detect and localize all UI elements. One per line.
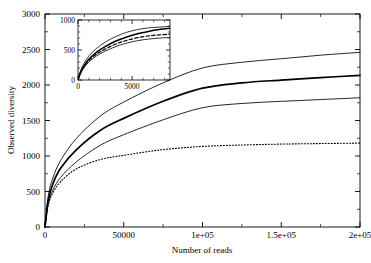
x-tick-label: 50000 — [113, 230, 136, 240]
y-tick-label: 500 — [27, 187, 41, 197]
x-tick-label: 0 — [43, 230, 48, 240]
inset-plot-border — [78, 20, 170, 80]
x-tick-label: 1.5e+05 — [267, 230, 297, 240]
y-tick-label: 1000 — [22, 151, 41, 161]
curve-lower-confidence-bound — [45, 98, 360, 227]
inset-y-tick-label: 500 — [64, 46, 76, 55]
y-axis-tick-labels: 050010001500200025003000 — [22, 9, 41, 232]
inset-y-tick-label: 0 — [71, 76, 75, 85]
y-tick-label: 3000 — [22, 9, 41, 19]
inset-plot: 05001000 05000 — [60, 16, 170, 91]
y-tick-label: 1500 — [22, 116, 41, 126]
x-tick-label: 1e+05 — [191, 230, 214, 240]
y-tick-label: 2500 — [22, 45, 41, 55]
inset-y-axis-tick-labels: 05001000 — [60, 16, 75, 85]
inset-x-tick-label: 5000 — [125, 82, 140, 91]
y-tick-label: 2000 — [22, 80, 41, 90]
x-axis-title: Number of reads — [172, 245, 233, 255]
y-axis-title: Observed diversity — [6, 85, 16, 154]
inset-x-tick-label: 0 — [76, 82, 80, 91]
inset-y-tick-label: 1000 — [60, 16, 75, 25]
inset-x-axis-tick-labels: 05000 — [76, 82, 140, 91]
x-tick-label: 2e+05 — [349, 230, 371, 240]
rarefaction-chart: 050010001500200025003000 0500001e+051.5e… — [0, 0, 371, 263]
figure-container: 050010001500200025003000 0500001e+051.5e… — [0, 0, 371, 263]
x-axis-tick-labels: 0500001e+051.5e+052e+05 — [43, 230, 371, 240]
y-tick-label: 0 — [36, 222, 41, 232]
curve-observed-rarefaction — [45, 143, 360, 227]
curve-estimated-diversity — [45, 75, 360, 227]
